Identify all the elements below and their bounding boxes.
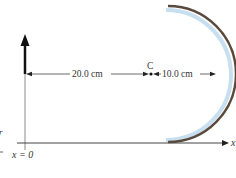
dimension-arrowhead-left-icon	[26, 72, 32, 76]
object-distance-label: 20.0 cm	[72, 69, 103, 79]
focal-distance-label: 10.0 cm	[162, 69, 193, 79]
mirror-diagram: x x = 0 r 20.0 cm C 10.0 cm	[0, 0, 236, 178]
edge-mark-label: r	[0, 127, 3, 137]
dimension-arrowhead-c-left-icon	[143, 72, 149, 76]
x-axis-label: x	[230, 137, 236, 148]
center-point-label: C	[147, 61, 153, 71]
dimension-arrowhead-mirror-icon	[210, 72, 216, 76]
object-arrowhead-icon	[21, 34, 30, 46]
x-axis-arrowhead-icon	[222, 140, 229, 146]
center-point	[149, 72, 152, 75]
origin-label: x = 0	[11, 149, 33, 160]
